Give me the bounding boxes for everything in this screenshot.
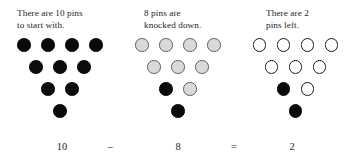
equation-minuend: 10 xyxy=(44,140,80,154)
panel-total: There are 10 pins to start with. xyxy=(0,0,120,163)
pin-standing xyxy=(41,38,55,52)
panel-total-pinfield xyxy=(0,38,120,123)
pin-empty xyxy=(253,38,267,52)
pin-knocked-down xyxy=(135,38,149,52)
pin-empty xyxy=(325,38,339,52)
pin-standing xyxy=(289,104,303,118)
pin-standing xyxy=(53,104,67,118)
panel-knocked-down-caption: 8 pins are knocked down. xyxy=(144,7,236,31)
pin-standing xyxy=(41,82,55,96)
pin-row xyxy=(236,60,355,74)
pin-knocked-down xyxy=(159,38,173,52)
pin-standing xyxy=(29,60,43,74)
pin-row xyxy=(0,82,120,96)
pin-empty xyxy=(289,60,303,74)
panel-knocked-down: 8 pins are knocked down. xyxy=(120,0,236,163)
panel-remaining: There are 2 pins left. xyxy=(236,0,355,163)
pin-knocked-down xyxy=(195,60,209,74)
pin-row xyxy=(120,104,236,118)
pin-standing xyxy=(53,60,67,74)
pin-empty xyxy=(301,82,315,96)
panel-remaining-pinfield xyxy=(236,38,355,123)
pin-knocked-down xyxy=(171,60,185,74)
pin-standing xyxy=(65,82,79,96)
equation-difference: 2 xyxy=(274,140,310,154)
pin-row xyxy=(236,104,355,118)
pin-empty xyxy=(313,60,327,74)
pin-standing xyxy=(171,104,185,118)
pin-standing xyxy=(277,82,291,96)
pin-standing xyxy=(89,38,103,52)
panel-total-caption: There are 10 pins to start with. xyxy=(17,7,117,31)
pin-empty xyxy=(265,60,279,74)
pin-row xyxy=(236,82,355,96)
equation-row: 10 – 8 = 2 xyxy=(0,140,355,158)
pin-standing xyxy=(77,60,91,74)
equals-operator: = xyxy=(218,140,250,154)
pin-standing xyxy=(159,82,173,96)
panel-knocked-down-pinfield xyxy=(120,38,236,123)
pin-row xyxy=(0,60,120,74)
pin-row xyxy=(120,60,236,74)
pin-row xyxy=(0,104,120,118)
pin-knocked-down xyxy=(147,60,161,74)
equation-subtrahend: 8 xyxy=(160,140,196,154)
pin-row xyxy=(120,38,236,52)
pin-knocked-down xyxy=(183,38,197,52)
pin-empty xyxy=(277,38,291,52)
pin-empty xyxy=(301,38,315,52)
pin-row xyxy=(120,82,236,96)
minus-operator: – xyxy=(94,140,126,154)
pin-row xyxy=(0,38,120,52)
pin-standing xyxy=(65,38,79,52)
pin-knocked-down xyxy=(207,38,221,52)
pin-row xyxy=(236,38,355,52)
pin-knocked-down xyxy=(183,82,197,96)
panel-remaining-caption: There are 2 pins left. xyxy=(266,7,354,31)
pin-standing xyxy=(17,38,31,52)
